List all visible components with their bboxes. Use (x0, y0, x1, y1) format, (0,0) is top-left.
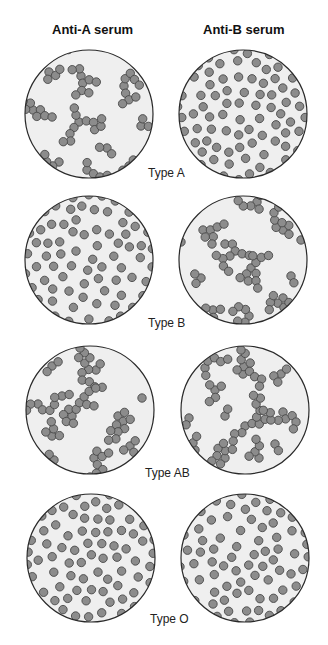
dish-type-a-anti-b (178, 48, 308, 180)
dish-type-b-anti-b (178, 194, 308, 326)
dish-type-b-anti-a (24, 194, 154, 326)
dish-type-ab-anti-a (25, 344, 155, 476)
dish-type-o-anti-b (180, 492, 310, 624)
heading-anti-a-serum: Anti-A serum (52, 22, 133, 37)
label-type-a: Type A (148, 166, 185, 180)
label-type-b: Type B (148, 316, 185, 330)
heading-anti-b-serum: Anti-B serum (203, 22, 285, 37)
dish-type-ab-anti-b (180, 344, 310, 476)
dish-type-o-anti-a (26, 492, 156, 624)
label-type-ab: Type AB (145, 466, 190, 480)
label-type-o: Type O (150, 612, 189, 626)
dish-type-a-anti-a (24, 48, 154, 180)
